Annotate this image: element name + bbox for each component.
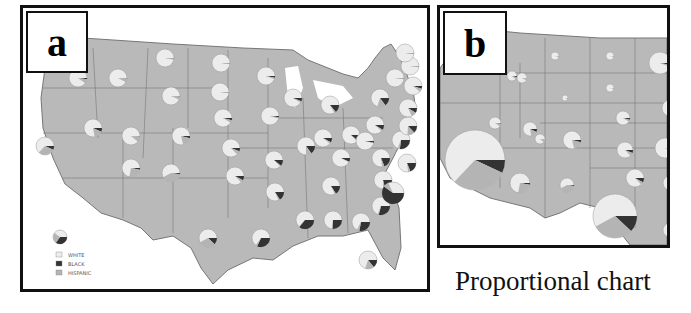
pie-sd [211, 83, 229, 101]
legend-label-black: BLACK [68, 261, 85, 267]
pie-b-or [489, 117, 501, 129]
pie-la [252, 229, 270, 247]
legend-label-hispanic: HISPANIC [68, 270, 92, 276]
pie-ne [214, 109, 232, 127]
pie-nd [212, 54, 230, 72]
pie-mn [257, 67, 275, 85]
pie-mo [265, 151, 283, 169]
pie-ny [371, 89, 389, 107]
pie-tx [199, 229, 217, 247]
pie-ga [352, 213, 370, 231]
pie-b-az [510, 173, 530, 193]
pie-b-wy [562, 95, 568, 101]
pie-ma [404, 77, 422, 95]
panel-b-map: b [437, 5, 670, 248]
pie-wi [284, 89, 302, 107]
pie-ar [266, 183, 284, 201]
pie-il [297, 137, 315, 155]
pie-b-ok [626, 169, 644, 187]
legend-swatch-white [56, 252, 62, 257]
pie-ut [122, 127, 140, 145]
pie-b-tx [593, 194, 637, 238]
pie-ms [296, 211, 314, 229]
pie-black-slice [400, 140, 410, 149]
pie-de [398, 154, 416, 172]
legend-sample-pie [53, 230, 67, 244]
pie-b-mt [551, 52, 559, 60]
pie-b-nm [560, 178, 574, 192]
pie-az [122, 159, 140, 177]
pie-in [314, 129, 332, 147]
pie-wy [162, 87, 180, 105]
pie-ct [399, 99, 417, 117]
pie-nm [162, 164, 180, 182]
pie-b-nd [606, 52, 614, 60]
pie-b-id [517, 73, 527, 83]
pie-mi [321, 96, 339, 114]
pie-vt [386, 69, 404, 87]
panel-b-label: b [443, 11, 507, 75]
caption: Proportional chart [455, 266, 651, 297]
pie-b-ut [535, 134, 545, 144]
panel-a-label: a [26, 11, 88, 73]
panel-a-map: WHITEBLACKHISPANIC a [20, 5, 430, 292]
pie-ks [222, 139, 240, 157]
pie-ia [261, 107, 279, 125]
pie-me [396, 44, 414, 62]
pie-b-ca [445, 130, 505, 190]
legend-label-white: WHITE [68, 252, 84, 258]
pie-id [109, 69, 127, 87]
pie-fl [359, 251, 377, 269]
pie-nv [84, 119, 102, 137]
legend: WHITEBLACKHISPANIC [53, 230, 92, 276]
pie-wv [356, 132, 374, 150]
pie-b-wa [507, 71, 517, 81]
pie-nj [399, 117, 417, 135]
pie-mt [156, 49, 174, 67]
pie-dc [382, 182, 404, 204]
legend-swatch-hispanic [56, 270, 62, 275]
pie-ky [332, 149, 350, 167]
pie-b-sd [606, 84, 614, 92]
pie-ca [36, 137, 54, 155]
pie-pa [366, 116, 384, 134]
pie-b-nv [523, 122, 537, 136]
pie-b-ks [617, 142, 633, 158]
pie-tn [322, 177, 340, 195]
legend-swatch-black [56, 261, 62, 266]
pie-al [324, 211, 342, 229]
pie-b-co [563, 131, 581, 149]
pie-va [372, 149, 390, 167]
pie-co [172, 127, 190, 145]
pie-ok [226, 167, 244, 185]
pie-b-ne [616, 111, 630, 125]
